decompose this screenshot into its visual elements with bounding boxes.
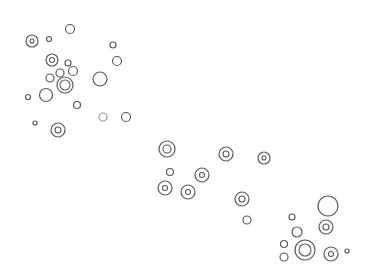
circle-drawing [0, 0, 368, 266]
background [0, 0, 368, 266]
